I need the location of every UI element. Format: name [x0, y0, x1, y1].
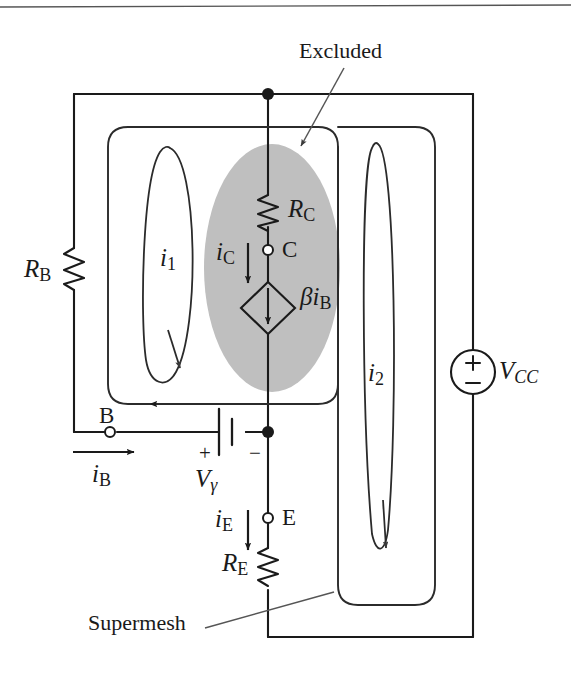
voltage-source-vcc-label: VCC	[499, 358, 538, 386]
current-ic-label: iC	[216, 239, 235, 267]
terminal-b-node	[105, 427, 115, 437]
battery-vgamma-label: Vγ	[195, 466, 217, 494]
terminal-c-label: C	[282, 238, 297, 261]
excluded-label: Excluded	[299, 40, 382, 62]
supermesh-boundary-right	[338, 127, 435, 605]
mesh-current-i2-label: i2	[368, 360, 384, 388]
page-top-rule	[0, 5, 571, 7]
dependent-source-label: βiB	[300, 284, 331, 312]
battery-vgamma-symbol	[219, 409, 246, 455]
voltage-source-vcc-polarity	[466, 356, 480, 383]
junction-dot-base	[262, 426, 274, 438]
terminal-b-label: B	[99, 404, 114, 427]
resistor-rc-label: RC	[288, 196, 315, 224]
mesh-current-i2-arrowhead	[383, 500, 386, 548]
resistor-rb-label: RB	[24, 256, 51, 284]
battery-plus-label: +	[199, 443, 211, 464]
resistor-rb-symbol	[64, 248, 84, 290]
mesh-current-i1-label: i1	[160, 245, 176, 273]
terminal-e-label: E	[282, 506, 296, 529]
current-ib-label: iB	[92, 461, 111, 489]
junction-dot-top	[262, 88, 274, 100]
terminal-e-node	[263, 513, 273, 523]
supermesh-leader-line	[205, 592, 334, 628]
supermesh-label: Supermesh	[88, 612, 186, 634]
current-ie-label: iE	[215, 506, 233, 534]
excluded-region-shading	[204, 144, 340, 392]
terminal-c-node	[263, 245, 273, 255]
circuit-figure: Excluded Supermesh RB RC RE VCC Vγ + − β…	[0, 0, 571, 678]
excluded-leader-line	[301, 68, 344, 146]
battery-minus-label: −	[249, 443, 261, 464]
circuit-schematic	[0, 0, 571, 678]
mesh-current-i1-arrowhead	[168, 330, 180, 368]
resistor-re-label: RE	[222, 550, 248, 578]
mesh-current-loop-i2	[364, 143, 394, 549]
resistor-re-symbol	[258, 548, 278, 586]
